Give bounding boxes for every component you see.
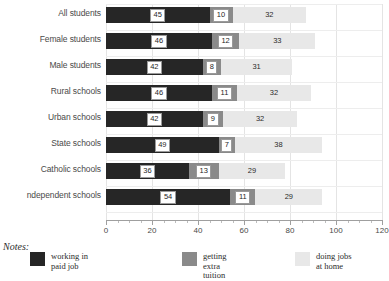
bar-segment: 36	[106, 163, 189, 179]
bar-value-label: 32	[252, 113, 267, 126]
axis-tick-minor	[118, 221, 119, 223]
axis-tick-major	[290, 221, 291, 225]
bar-value-label: 38	[271, 139, 286, 152]
bar-segment: 45	[106, 7, 210, 23]
axis-tick-major	[244, 221, 245, 225]
chart-legend: working in paid jobgetting extra tuition…	[30, 252, 382, 281]
category-label: All students	[58, 8, 101, 18]
stacked-bar: 541129	[106, 189, 322, 205]
axis-tick-major	[106, 221, 107, 225]
legend-item: getting extra tuition	[182, 252, 227, 281]
bar-value-label: 11	[217, 87, 232, 100]
bar-segment: 11	[230, 189, 255, 205]
chart-row: ndependent schools541129	[106, 186, 382, 212]
axis-tick-label: 60	[240, 226, 249, 235]
stacked-bar: 451032	[106, 7, 306, 23]
bar-segment: 33	[239, 33, 315, 49]
axis-tick-label: 40	[194, 226, 203, 235]
bar-segment: 31	[221, 59, 292, 75]
bar-value-label: 8	[206, 61, 217, 74]
axis-tick-label: 0	[104, 226, 108, 235]
bar-value-label: 32	[266, 87, 281, 100]
chart-row: Catholic schools361329	[106, 160, 382, 186]
bar-segment: 54	[106, 189, 230, 205]
axis-tick-minor	[221, 221, 222, 223]
bar-value-label: 42	[147, 113, 162, 126]
bar-segment: 38	[235, 137, 322, 153]
axis-tick-label: 80	[286, 226, 295, 235]
bar-value-label: 7	[221, 139, 232, 152]
gridline-horizontal	[106, 212, 382, 213]
chart-row: Male students42831	[106, 56, 382, 82]
axis-tick-minor	[371, 221, 372, 223]
bar-value-label: 29	[244, 165, 259, 178]
bar-value-label: 12	[218, 35, 233, 48]
bar-segment: 32	[237, 85, 311, 101]
stacked-bar: 42831	[106, 59, 292, 75]
bar-segment: 12	[212, 33, 240, 49]
legend-swatch	[295, 252, 310, 266]
axis-tick-major	[152, 221, 153, 225]
legend-swatch	[30, 252, 45, 266]
stacked-bar: 361329	[106, 163, 285, 179]
bar-segment: 10	[210, 7, 233, 23]
axis-tick-minor	[141, 221, 142, 223]
bar-value-label: 11	[235, 191, 250, 204]
axis-tick-minor	[348, 221, 349, 223]
gridline-vertical	[382, 4, 383, 220]
bar-segment: 49	[106, 137, 219, 153]
bar-segment: 7	[219, 137, 235, 153]
bar-segment: 29	[219, 163, 286, 179]
bar-value-label: 54	[160, 191, 175, 204]
bar-value-label: 31	[249, 61, 264, 74]
axis-tick-minor	[267, 221, 268, 223]
category-label: Male students	[49, 60, 101, 70]
bar-segment: 32	[233, 7, 307, 23]
bar-value-label: 45	[150, 9, 165, 22]
category-label: Rural schools	[51, 86, 101, 96]
axis-tick-major	[382, 221, 383, 225]
bar-segment: 42	[106, 111, 203, 127]
axis-tick-major	[336, 221, 337, 225]
legend-label: doing jobs at home	[316, 252, 352, 271]
axis-tick-minor	[313, 221, 314, 223]
bar-value-label: 33	[270, 35, 285, 48]
axis-tick-label: 120	[375, 226, 388, 235]
stacked-bar: 461132	[106, 85, 311, 101]
chart-row: All students451032	[106, 4, 382, 30]
bar-value-label: 36	[140, 165, 155, 178]
axis-tick-major	[198, 221, 199, 225]
bar-segment: 9	[203, 111, 224, 127]
legend-label: getting extra tuition	[203, 252, 227, 281]
legend-item: working in paid job	[30, 252, 88, 271]
bar-value-label: 9	[207, 113, 218, 126]
axis-tick-minor	[233, 221, 234, 223]
bar-segment: 11	[212, 85, 237, 101]
bar-segment: 32	[223, 111, 297, 127]
axis-tick-minor	[359, 221, 360, 223]
plot-area: All students451032Female students461233M…	[106, 4, 382, 220]
notes-label: Notes:	[3, 241, 29, 252]
bar-segment: 8	[203, 59, 221, 75]
bar-segment: 13	[189, 163, 219, 179]
chart-row: State schools49738	[106, 134, 382, 160]
category-label: Urban schools	[48, 112, 101, 122]
bar-value-label: 32	[262, 9, 277, 22]
bar-segment: 46	[106, 85, 212, 101]
stacked-bar: 49738	[106, 137, 322, 153]
bar-value-label: 10	[213, 9, 228, 22]
bar-value-label: 42	[147, 61, 162, 74]
bar-segment: 29	[255, 189, 322, 205]
axis-tick-minor	[279, 221, 280, 223]
bar-value-label: 49	[155, 139, 170, 152]
bar-value-label: 46	[151, 35, 166, 48]
bar-value-label: 46	[151, 87, 166, 100]
axis-tick-minor	[129, 221, 130, 223]
axis-tick-minor	[256, 221, 257, 223]
axis-tick-minor	[175, 221, 176, 223]
axis-tick-minor	[210, 221, 211, 223]
legend-label: working in paid job	[51, 252, 88, 271]
bar-segment: 42	[106, 59, 203, 75]
chart-row: Rural schools461132	[106, 82, 382, 108]
